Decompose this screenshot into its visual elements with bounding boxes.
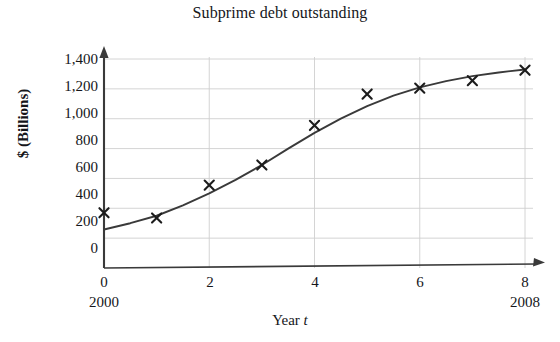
x-tick-label-2: 2 xyxy=(190,274,230,291)
data-point-marker xyxy=(363,89,372,98)
y-tick-label-1400: 1,400 xyxy=(36,52,98,67)
y-tick-label-800: 800 xyxy=(36,133,98,148)
gridlines xyxy=(104,57,533,268)
data-point-marker xyxy=(468,76,477,85)
y-tick-label-0: 0 xyxy=(36,241,98,256)
y-tick-label-600: 600 xyxy=(36,160,98,175)
x-tick-label-0: 0 xyxy=(84,274,124,291)
x-tick-label-8: 8 xyxy=(505,274,545,291)
x-year-label-2008: 2008 xyxy=(490,294,560,311)
chart-figure: Subprime debt outstanding $ (Billions) 1… xyxy=(0,0,560,342)
y-axis-title: $ (Billions) xyxy=(15,59,32,189)
y-tick-label-400: 400 xyxy=(36,187,98,202)
x-axis-title-word: Year xyxy=(272,312,300,328)
y-tick-label-1200: 1,200 xyxy=(36,79,98,94)
x-year-label-2000: 2000 xyxy=(69,294,139,311)
x-tick-label-4: 4 xyxy=(295,274,335,291)
data-point-marker xyxy=(257,160,266,169)
y-tick-label-200: 200 xyxy=(36,214,98,229)
x-tick-label-6: 6 xyxy=(400,274,440,291)
x-axis-title: Year t xyxy=(230,312,350,329)
axis-lines xyxy=(99,46,545,268)
x-axis-title-variable: t xyxy=(304,312,308,328)
y-tick-label-1000: 1,000 xyxy=(36,106,98,121)
